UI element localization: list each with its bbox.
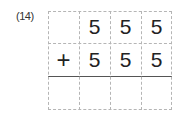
answer-cell-3[interactable] — [110, 76, 141, 109]
cell-r1-c4: 5 — [141, 11, 172, 43]
problem-label: (14) — [16, 10, 34, 22]
cell-r2-c3: 5 — [110, 43, 141, 76]
cell-r2-c2: 5 — [79, 43, 110, 76]
addition-grid: 5 5 5 + 5 5 5 — [48, 11, 172, 110]
answer-cell-1[interactable] — [48, 76, 79, 109]
plus-sign: + — [48, 43, 79, 76]
cell-r1-c3: 5 — [110, 11, 141, 43]
answer-cell-2[interactable] — [79, 76, 110, 109]
cell-r1-c2: 5 — [79, 11, 110, 43]
cell-r2-c4: 5 — [141, 43, 172, 76]
answer-cell-4[interactable] — [141, 76, 172, 109]
cell-r1-c1 — [48, 11, 79, 43]
